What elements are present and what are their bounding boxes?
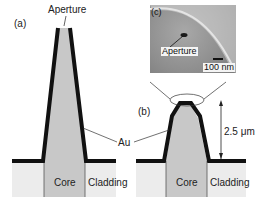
cladding-label-b: Cladding bbox=[210, 178, 249, 188]
zoom-line-left bbox=[150, 82, 170, 99]
au-label: Au bbox=[118, 138, 130, 148]
sem-image-inset: (c) Aperture 100 nm bbox=[150, 5, 236, 73]
au-leader-b bbox=[134, 130, 169, 142]
panel-label-c: (c) bbox=[151, 8, 162, 17]
panel-label-b: (b) bbox=[138, 107, 150, 117]
scale-bar-label: 100 nm bbox=[203, 63, 235, 72]
zoom-line-right bbox=[204, 82, 226, 99]
aperture-label-a: Aperture bbox=[48, 5, 86, 15]
aperture-label-c: Aperture bbox=[161, 47, 198, 56]
core-label-a: Core bbox=[54, 178, 76, 188]
core-label-b: Core bbox=[176, 178, 198, 188]
arrowhead-up bbox=[219, 100, 223, 106]
panel-label-a: (a) bbox=[14, 19, 26, 29]
aperture-spot bbox=[181, 33, 188, 37]
arrowhead-down bbox=[219, 153, 223, 159]
au-leader-a bbox=[83, 128, 117, 142]
height-label: 2.5 μm bbox=[224, 127, 255, 137]
cladding-label-a: Cladding bbox=[88, 178, 127, 188]
aperture-leader-a bbox=[64, 16, 66, 26]
